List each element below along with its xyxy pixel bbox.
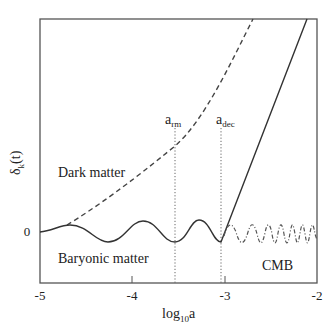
- baryonic-matter-curve: [40, 19, 307, 242]
- y-axis-label-tail: (t): [8, 150, 24, 164]
- x-tick-label-m5: -5: [35, 288, 46, 303]
- a-dec-label-sub: dec: [222, 119, 235, 129]
- x-axis-label-main: log: [162, 306, 180, 321]
- x-axis-label: log10a: [162, 306, 196, 324]
- cmb-label: CMB: [262, 258, 293, 273]
- y-tick-label-zero: 0: [24, 224, 31, 239]
- y-axis-label: δk(t): [8, 150, 26, 175]
- cmb-curve: [224, 225, 317, 243]
- plot-frame: [40, 19, 317, 283]
- chart-svg: -5 -4 -3 -2 0 log10a δk(t) arm adec Dark…: [0, 0, 335, 332]
- baryonic-matter-label: Baryonic matter: [58, 251, 149, 266]
- dark-matter-label: Dark matter: [58, 165, 126, 180]
- x-axis-label-tail: a: [189, 306, 196, 321]
- x-tick-label-m2: -2: [312, 288, 323, 303]
- a-rm-label: arm: [165, 112, 181, 129]
- x-tick-label-m3: -3: [220, 288, 231, 303]
- a-dec-label: adec: [216, 112, 235, 129]
- perturbation-growth-figure: -5 -4 -3 -2 0 log10a δk(t) arm adec Dark…: [0, 0, 335, 332]
- a-rm-label-sub: rm: [171, 119, 181, 129]
- x-tick-label-m4: -4: [127, 288, 138, 303]
